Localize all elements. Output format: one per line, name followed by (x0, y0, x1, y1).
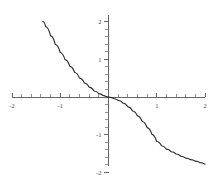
chart-screenshot: -2-112 -2-112 (0, 0, 214, 175)
x-tick-label: 2 (203, 102, 206, 109)
y-tick-label: 2 (98, 18, 101, 25)
y-tick-label: 1 (98, 56, 101, 63)
x-tick-label: 1 (155, 102, 158, 109)
function-plot: -2-112 -2-112 (0, 0, 214, 175)
y-tick-label: -2 (96, 169, 101, 175)
y-tick-label: -1 (96, 131, 101, 138)
x-tick-label: -2 (9, 102, 14, 109)
plot-background (0, 0, 214, 175)
x-tick-label: -1 (58, 102, 63, 109)
